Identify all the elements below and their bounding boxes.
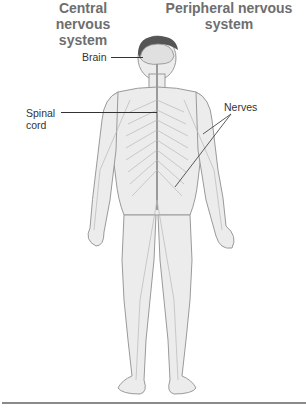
label-spinal-line1: Spinal (26, 107, 55, 119)
right-arm (196, 92, 234, 248)
bottom-rule (2, 402, 306, 404)
label-brain: Brain (82, 51, 107, 63)
left-arm (88, 92, 118, 246)
human-nervous-system-figure (0, 0, 306, 408)
right-leg (158, 215, 196, 394)
label-nerves: Nerves (224, 101, 257, 113)
label-spinal-line2: cord (26, 119, 55, 131)
label-spinal-cord: Spinal cord (26, 107, 55, 131)
left-leg (118, 215, 156, 394)
leader-line-spinal-cord (61, 112, 157, 113)
leader-line-brain (111, 57, 143, 58)
